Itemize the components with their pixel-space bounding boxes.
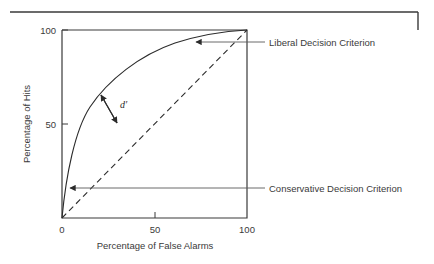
roc-chart-canvas: 100 50 0 50 100 Percentage of False Alar… [0, 0, 434, 264]
liberal-decision-criterion-label: Liberal Decision Criterion [269, 37, 375, 48]
y-tick-label-50: 50 [45, 119, 56, 130]
roc-figure: 100 50 0 50 100 Percentage of False Alar… [0, 0, 434, 264]
dprime-label: d′ [120, 99, 128, 110]
x-tick-label-100: 100 [239, 224, 255, 235]
chance-diagonal-line [62, 30, 247, 218]
y-axis-title: Percentage of Hits [21, 85, 32, 163]
y-tick-label-100: 100 [40, 25, 56, 36]
x-tick-label-50: 50 [150, 224, 161, 235]
x-tick-label-0: 0 [59, 224, 64, 235]
conservative-decision-criterion-label: Conservative Decision Criterion [269, 183, 402, 194]
x-axis-title: Percentage of False Alarms [97, 240, 214, 251]
dprime-arrow-lower [101, 95, 117, 123]
